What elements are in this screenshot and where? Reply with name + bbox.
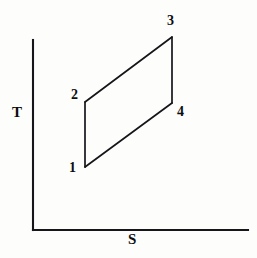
thermodynamic-cycle-group (85, 37, 172, 167)
ts-diagram-figure: T S 1 2 3 4 (0, 0, 257, 258)
state-point-label-4: 4 (177, 105, 184, 119)
temperature-axis-label: T (12, 105, 22, 120)
cycle-edge-2-3 (85, 37, 172, 102)
ts-diagram-canvas (0, 0, 257, 258)
state-point-label-3: 3 (167, 14, 174, 28)
cycle-edge-4-1 (85, 103, 172, 167)
state-point-label-1: 1 (69, 161, 76, 175)
axes-group (33, 40, 248, 230)
entropy-axis-label: S (128, 232, 136, 247)
state-point-label-2: 2 (71, 88, 78, 102)
